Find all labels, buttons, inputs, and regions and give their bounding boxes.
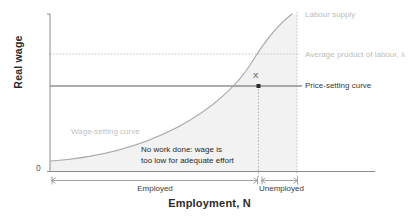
no-work-annotation: No work done: wage is too low for adequa… — [141, 145, 234, 167]
labour-supply-label: Labour supply — [305, 10, 355, 19]
no-work-annotation-line1: No work done: wage is — [141, 145, 234, 156]
average-product-label: Average product of labour, λ — [305, 50, 405, 59]
y-axis-title: Real wage — [12, 22, 24, 102]
price-setting-curve-label: Price-setting curve — [305, 81, 371, 90]
unemployed-bracket-label: Unemployed — [259, 184, 299, 193]
chart-figure: Real wage Employment, N 0 Labour supply … — [0, 0, 419, 216]
x-axis-title: Employment, N — [0, 197, 419, 210]
equilibrium-point-marker — [257, 84, 261, 88]
equilibrium-point-label: X — [253, 71, 258, 80]
wage-setting-curve-label: Wage-setting curve — [71, 127, 140, 136]
origin-label: 0 — [36, 164, 41, 174]
employed-bracket-label: Employed — [52, 184, 258, 193]
no-work-annotation-line2: too low for adequate effort — [141, 156, 234, 167]
